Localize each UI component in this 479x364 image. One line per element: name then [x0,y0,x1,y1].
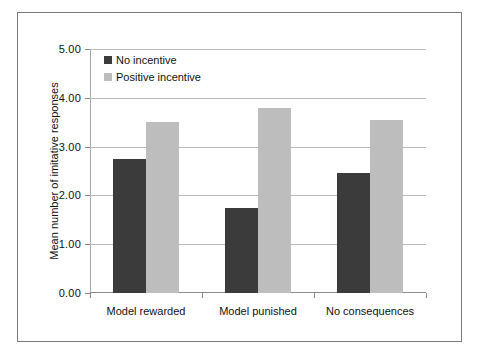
y-tick-label: 3.00 [59,141,81,153]
x-tick-mark [202,293,203,298]
legend-label: Positive incentive [116,71,201,83]
bar [113,159,146,293]
y-tick-mark [85,195,90,196]
y-tick-mark [85,49,90,50]
y-tick-label: 0.00 [59,287,81,299]
bar [146,122,179,293]
y-axis-line [90,49,91,293]
legend-item: No incentive [104,53,201,66]
y-tick-label: 2.00 [59,189,81,201]
y-tick-mark [85,244,90,245]
legend-swatch-icon [104,56,112,64]
legend: No incentivePositive incentive [104,53,201,87]
y-tick-label: 4.00 [59,92,81,104]
y-tick-mark [85,147,90,148]
x-tick-label: Model rewarded [107,305,186,317]
x-tick-mark [90,293,91,298]
bar [370,120,403,293]
bar [337,173,370,293]
legend-swatch-icon [104,73,112,81]
bar [225,208,258,293]
y-axis-title-text: Mean number of imitative responses [48,82,60,259]
y-tick-label: 5.00 [59,43,81,55]
y-tick-label: 1.00 [59,238,81,250]
x-tick-mark [426,293,427,298]
x-tick-label: Model punished [219,305,297,317]
x-tick-label: No consequences [326,305,414,317]
x-tick-mark [314,293,315,298]
bar [258,108,291,293]
y-axis-title: Mean number of imitative responses [46,49,62,293]
gridline [90,98,426,99]
figure-frame: Mean number of imitative responses 0.001… [17,12,462,342]
y-tick-mark [85,98,90,99]
legend-label: No incentive [116,54,177,66]
gridline [90,49,426,50]
legend-item: Positive incentive [104,70,201,83]
